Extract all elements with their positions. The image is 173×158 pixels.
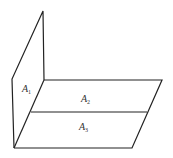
planes-diagram: A1 A2 A3 [0,0,173,158]
horizontal-plane-outline [14,80,162,148]
label-a3: A3 [78,121,88,133]
label-a2: A2 [80,93,90,105]
label-a1: A1 [21,83,31,95]
vertical-plane-outline [12,11,44,148]
